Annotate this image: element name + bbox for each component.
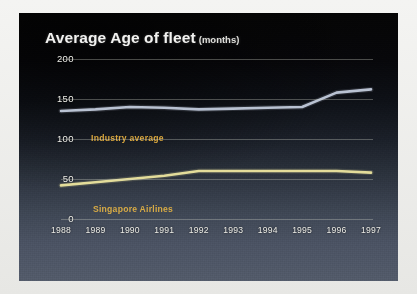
y-axis-tick-0: 0 — [34, 213, 74, 224]
x-axis-tick-1992: 1992 — [182, 225, 216, 235]
x-axis-tick-1988: 1988 — [44, 225, 78, 235]
series-svg — [19, 13, 398, 281]
y-axis-tick-150: 150 — [34, 93, 74, 104]
x-axis-tick-1989: 1989 — [78, 225, 112, 235]
x-axis-tick-1995: 1995 — [285, 225, 319, 235]
gridline-0 — [61, 219, 373, 220]
series-label-industry-average: Industry average — [91, 133, 164, 143]
gridline-100 — [61, 139, 373, 140]
y-axis-tick-100: 100 — [34, 133, 74, 144]
x-axis-tick-1996: 1996 — [320, 225, 354, 235]
x-axis-tick-1990: 1990 — [113, 225, 147, 235]
plot-area: Industry average Singapore Airlines 0501… — [19, 13, 398, 281]
x-axis-tick-1994: 1994 — [251, 225, 285, 235]
series-label-singapore-airlines: Singapore Airlines — [93, 204, 173, 214]
x-axis-tick-1993: 1993 — [216, 225, 250, 235]
y-axis-tick-50: 50 — [34, 173, 74, 184]
x-axis-tick-1991: 1991 — [147, 225, 181, 235]
y-axis-tick-200: 200 — [34, 53, 74, 64]
gridline-150 — [61, 99, 373, 100]
chart-panel: Average Age of fleet(months) Industry av… — [19, 13, 398, 281]
gridline-50 — [61, 179, 373, 180]
x-axis-tick-1997: 1997 — [354, 225, 388, 235]
slide-frame: Average Age of fleet(months) Industry av… — [0, 0, 417, 294]
gridline-200 — [61, 59, 373, 60]
